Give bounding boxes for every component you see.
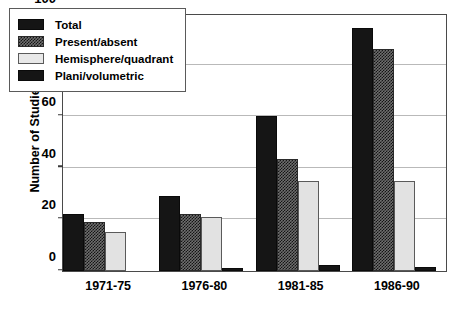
bar-plani: [222, 268, 243, 271]
y-tick-label: 0: [49, 249, 56, 264]
legend-swatch-plani: [18, 70, 44, 81]
bar-hemi: [201, 217, 222, 271]
bar-present: [180, 214, 201, 271]
bar-total: [159, 196, 180, 271]
legend-swatch-present: [18, 36, 44, 47]
legend-item: Present/absent: [18, 33, 173, 50]
bar-present: [373, 49, 394, 271]
bar-group: [256, 15, 340, 271]
legend-swatch-total: [18, 19, 44, 30]
legend-item: Plani/volumetric: [18, 67, 173, 84]
bar-group: [352, 15, 436, 271]
x-tick-label: 1971-75: [85, 279, 131, 293]
x-tick-label: 1986-90: [374, 279, 420, 293]
chart-legend: TotalPresent/absentHemisphere/quadrantPl…: [9, 8, 186, 92]
bar-total: [352, 28, 373, 271]
y-tick-label: 60: [42, 94, 56, 109]
legend-swatch-hemi: [18, 53, 44, 64]
bar-total: [63, 214, 84, 271]
x-tick-label: 1976-80: [181, 279, 227, 293]
bar-hemi: [298, 181, 319, 271]
bar-plani: [319, 265, 340, 271]
y-tick-label: 20: [42, 197, 56, 212]
bar-hemi: [105, 232, 126, 271]
bar-present: [84, 222, 105, 271]
bar-hemi: [394, 181, 415, 271]
legend-label: Plani/volumetric: [55, 70, 144, 82]
legend-label: Total: [55, 19, 82, 31]
y-tick-label: 40: [42, 145, 56, 160]
legend-item: Total: [18, 16, 173, 33]
legend-item: Hemisphere/quadrant: [18, 50, 173, 67]
x-tick-label: 1981-85: [278, 279, 324, 293]
y-tick-label: 100: [34, 0, 56, 6]
legend-label: Present/absent: [55, 36, 137, 48]
bar-present: [277, 159, 298, 271]
bar-chart-figure: Number of Studies 020406080100 1971-7519…: [0, 0, 459, 319]
legend-label: Hemisphere/quadrant: [55, 53, 173, 65]
bar-total: [256, 116, 277, 271]
bar-plani: [415, 267, 436, 271]
